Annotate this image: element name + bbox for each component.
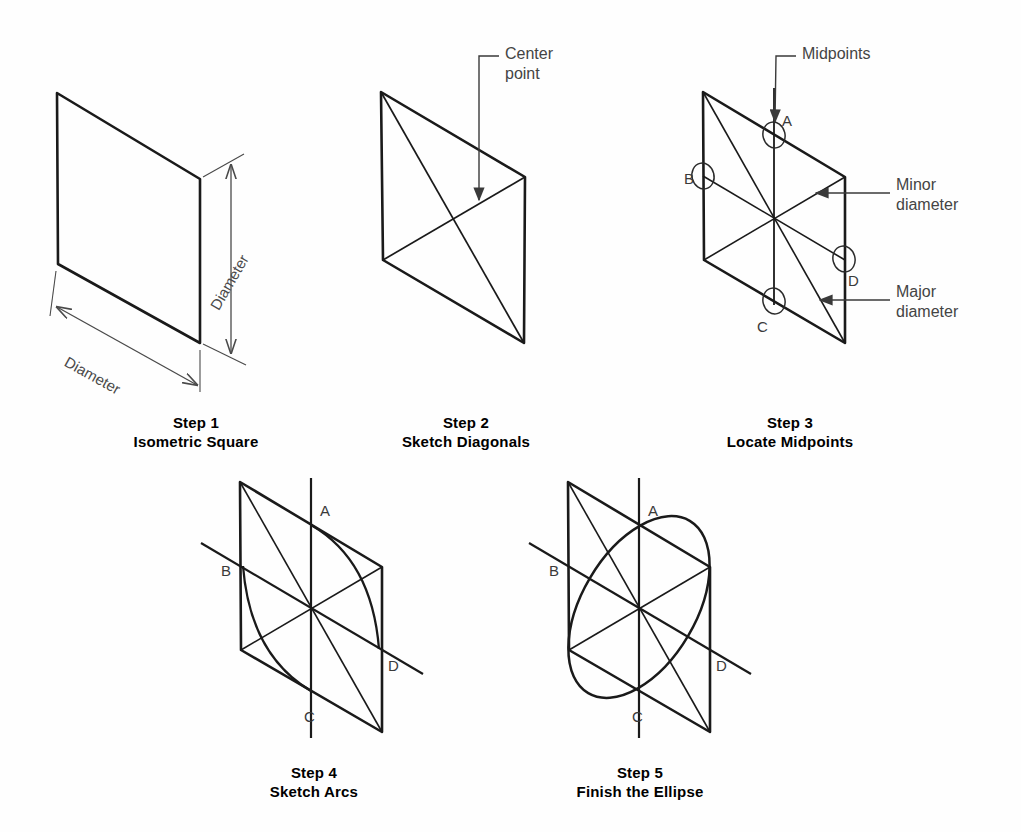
step-1-number: Step 1 xyxy=(173,414,219,431)
step-1-isometric-square xyxy=(57,93,200,343)
step-2-number: Step 2 xyxy=(443,414,489,431)
step-3-point-label-a: A xyxy=(782,112,792,129)
step-4-caption: Step 4 Sketch Arcs xyxy=(214,763,414,801)
step-4-point-label-d: D xyxy=(388,657,399,674)
step-2-diagonal-short xyxy=(383,177,525,260)
step-3-number: Step 3 xyxy=(767,414,813,431)
step-4-number: Step 4 xyxy=(291,764,337,781)
step-4-point-label-a: A xyxy=(320,502,330,519)
step-3-point-label-b: B xyxy=(684,170,694,187)
step-1-extension-line-left xyxy=(50,271,56,316)
step-2-caption: Step 2 Sketch Diagonals xyxy=(366,413,566,451)
step-4-drawing xyxy=(201,478,423,738)
step-5-point-label-c: C xyxy=(632,708,643,725)
major-diameter-label-line2: diameter xyxy=(896,302,958,322)
step-3-point-label-d: D xyxy=(848,272,859,289)
center-point-label-line1: Center xyxy=(505,45,553,62)
figure-page: Diameter Diameter Center point Midpoints… xyxy=(0,0,1021,832)
step-4-point-label-c: C xyxy=(304,708,315,725)
step-5-drawing xyxy=(529,478,751,738)
step-3-point-label-c: C xyxy=(757,318,768,335)
step-3-caption: Step 3 Locate Midpoints xyxy=(690,413,890,451)
step-4-point-label-b: B xyxy=(221,562,231,579)
step-5-point-label-a: A xyxy=(648,502,658,519)
step-1-extension-line-top xyxy=(203,154,244,177)
major-diameter-annotation: Major diameter xyxy=(896,282,958,322)
major-diameter-label-line1: Major xyxy=(896,283,936,300)
step-5-title: Finish the Ellipse xyxy=(540,782,740,801)
midpoints-label: Midpoints xyxy=(802,45,870,62)
step-2-diagonal-long xyxy=(381,92,524,343)
step-2-drawing xyxy=(381,56,525,343)
step-5-caption: Step 5 Finish the Ellipse xyxy=(540,763,740,801)
step-5-number: Step 5 xyxy=(617,764,663,781)
step-1-title: Isometric Square xyxy=(96,432,296,451)
step-2-center-point-leader xyxy=(479,56,499,200)
center-point-label-line2: point xyxy=(505,64,553,84)
minor-diameter-label-line1: Minor xyxy=(896,176,936,193)
center-point-annotation: Center point xyxy=(505,44,553,84)
minor-diameter-annotation: Minor diameter xyxy=(896,175,958,215)
step-1-extension-line-bottom xyxy=(203,344,246,365)
step-5-point-label-b: B xyxy=(549,562,559,579)
minor-diameter-label-line2: diameter xyxy=(896,195,958,215)
step-2-title: Sketch Diagonals xyxy=(366,432,566,451)
midpoints-annotation: Midpoints xyxy=(802,44,870,64)
step-4-title: Sketch Arcs xyxy=(214,782,414,801)
step-5-point-label-d: D xyxy=(716,657,727,674)
step-3-title: Locate Midpoints xyxy=(690,432,890,451)
step-3-drawing xyxy=(689,56,890,343)
step-1-caption: Step 1 Isometric Square xyxy=(96,413,296,451)
step-1-drawing xyxy=(50,93,246,392)
